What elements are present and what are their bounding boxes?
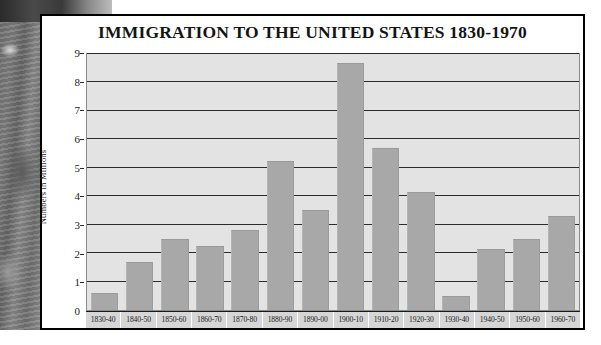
bar-1960-70 [548, 216, 575, 310]
bar-1920-30 [407, 192, 434, 310]
x-tick-label-1960-70: 1960-70 [546, 312, 580, 328]
x-tick-label-1840-50: 1840-50 [121, 312, 156, 328]
bar-1860-70 [196, 246, 223, 310]
bar-cell [438, 54, 473, 310]
y-axis-tick-labels: 0123456789 [58, 53, 84, 311]
bar-series [87, 54, 579, 310]
bar-1890-00 [302, 210, 329, 310]
y-tick-mark-8 [80, 82, 84, 83]
bar-1850-60 [161, 239, 188, 310]
bar-cell [333, 54, 368, 310]
y-tick-mark-6 [80, 139, 84, 140]
x-tick-label-1880-90: 1880-90 [263, 312, 298, 328]
bar-1840-50 [126, 262, 153, 310]
y-tick-label-0: 0 [75, 305, 81, 317]
bar-1930-40 [442, 296, 469, 310]
x-axis-tick-labels: 1830-401840-501850-601860-701870-801880-… [86, 312, 580, 328]
x-tick-label-1830-40: 1830-40 [86, 312, 121, 328]
bar-cell [192, 54, 227, 310]
x-tick-label-1870-80: 1870-80 [227, 312, 262, 328]
bar-1870-80 [231, 230, 258, 310]
bar-1900-10 [337, 63, 364, 310]
page-bottom-margin [0, 330, 601, 345]
y-tick-mark-7 [80, 110, 84, 111]
x-tick-label-1930-40: 1930-40 [440, 312, 475, 328]
x-tick-label-1850-60: 1850-60 [157, 312, 192, 328]
x-tick-label-1940-50: 1940-50 [475, 312, 510, 328]
bar-1880-90 [267, 161, 294, 310]
y-tick-mark-1 [80, 282, 84, 283]
x-tick-label-1920-30: 1920-30 [404, 312, 439, 328]
bar-1830-40 [91, 293, 118, 310]
chart-frame: IMMIGRATION TO THE UNITED STATES 1830-19… [40, 14, 585, 330]
chart-title: IMMIGRATION TO THE UNITED STATES 1830-19… [42, 22, 583, 43]
bar-cell [403, 54, 438, 310]
plot-area [86, 53, 580, 311]
bar-cell [368, 54, 403, 310]
y-tick-mark-2 [80, 254, 84, 255]
bar-cell [263, 54, 298, 310]
bar-cell [87, 54, 122, 310]
x-tick-label-1890-00: 1890-00 [298, 312, 333, 328]
y-tick-mark-9 [80, 53, 84, 54]
x-tick-label-1860-70: 1860-70 [192, 312, 227, 328]
bar-cell [544, 54, 579, 310]
bar-cell [157, 54, 192, 310]
background-photo-strip [0, 0, 40, 330]
bar-1910-20 [372, 148, 399, 310]
x-tick-label-1910-20: 1910-20 [369, 312, 404, 328]
bar-cell [298, 54, 333, 310]
x-tick-label-1900-10: 1900-10 [334, 312, 369, 328]
bar-cell [122, 54, 157, 310]
bar-1940-50 [477, 249, 504, 310]
bar-1950-60 [513, 239, 540, 310]
bar-cell [474, 54, 509, 310]
y-tick-mark-4 [80, 196, 84, 197]
y-axis-title: Numbers in Millions [38, 112, 48, 262]
y-tick-mark-5 [80, 168, 84, 169]
y-tick-mark-3 [80, 225, 84, 226]
bar-cell [228, 54, 263, 310]
bar-cell [509, 54, 544, 310]
x-tick-label-1950-60: 1950-60 [510, 312, 545, 328]
